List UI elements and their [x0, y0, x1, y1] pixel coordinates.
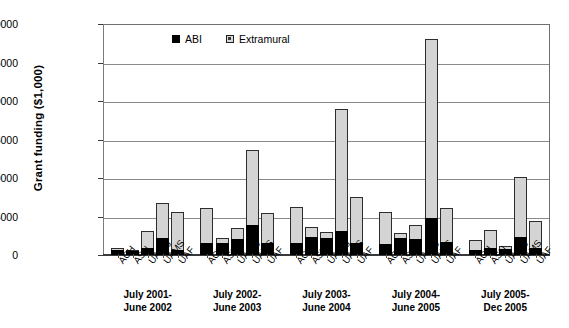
group-caption-line1: July 2002- — [192, 289, 281, 302]
bar-uams-g4 — [425, 39, 438, 255]
y-tick-label: 15000 — [0, 135, 18, 145]
bar-segment-extramural — [156, 203, 169, 237]
group-caption-line2: June 2002 — [103, 302, 192, 315]
bar-segment-extramural — [379, 212, 392, 244]
group-caption-5: July 2005-Dec 2005 — [461, 289, 550, 314]
legend-swatch-extramural — [226, 35, 234, 43]
group-caption-line2: June 2003 — [192, 302, 281, 315]
bar-segment-extramural — [290, 207, 303, 243]
group-caption-line1: July 2003- — [282, 289, 371, 302]
y-tick-label: 0 — [0, 250, 18, 260]
y-tick-label: 20000 — [0, 96, 18, 106]
bar-ach-g3 — [290, 207, 303, 255]
bar-segment-extramural — [246, 150, 259, 225]
group-caption-line1: July 2004- — [371, 289, 460, 302]
bar-segment-extramural — [514, 177, 527, 237]
bar-segment-extramural — [305, 227, 318, 236]
y-tick-label: 10000 — [0, 173, 18, 183]
group-caption-4: July 2004-June 2005 — [371, 289, 460, 314]
bar-uams-g3 — [335, 109, 348, 255]
bar-segment-extramural — [231, 228, 244, 238]
y-tick-mark — [98, 255, 103, 256]
group-caption-3: July 2003-June 2004 — [282, 289, 371, 314]
bar-ach-g4 — [379, 212, 392, 256]
chart-legend: ABI Extramural — [172, 33, 290, 45]
y-axis-title: Grant funding ($1,000) — [32, 28, 44, 228]
y-tick-label: 5000 — [0, 212, 18, 222]
group-caption-line2: June 2005 — [371, 302, 460, 315]
legend-item-extramural: Extramural — [226, 33, 290, 45]
group-caption-1: July 2001-June 2002 — [103, 289, 192, 314]
grant-funding-bar-chart: Grant funding ($1,000) 05000100001500020… — [0, 0, 569, 328]
legend-item-abi: ABI — [172, 33, 202, 45]
bar-segment-extramural — [409, 225, 422, 238]
bar-segment-extramural — [335, 109, 348, 231]
bar-ach-g2 — [200, 208, 213, 255]
group-caption-line2: June 2004 — [282, 302, 371, 315]
bar-segment-extramural — [425, 39, 438, 218]
group-caption-line2: Dec 2005 — [461, 302, 550, 315]
bars-layer — [103, 24, 550, 255]
y-tick-label: 30000 — [0, 19, 18, 29]
legend-label-extramural: Extramural — [239, 33, 290, 45]
bar-segment-extramural — [200, 208, 213, 243]
legend-swatch-abi — [172, 35, 180, 43]
group-caption-2: July 2002-June 2003 — [192, 289, 281, 314]
group-caption-line1: July 2005- — [461, 289, 550, 302]
legend-label-abi: ABI — [185, 33, 202, 45]
group-caption-line1: July 2001- — [103, 289, 192, 302]
y-tick-label: 25000 — [0, 58, 18, 68]
